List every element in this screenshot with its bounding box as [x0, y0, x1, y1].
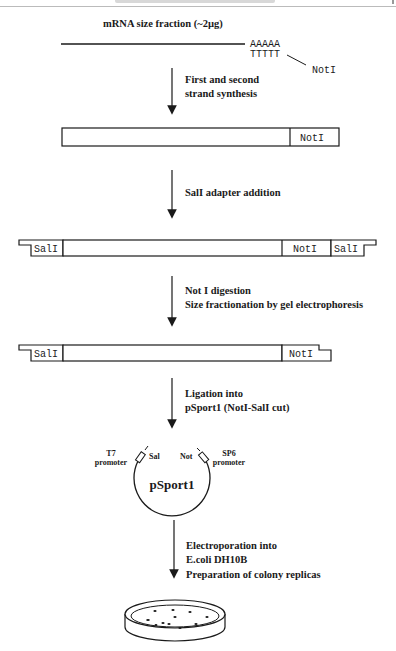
petri-dish-icon	[125, 600, 225, 641]
digested-construct: SalI NotI	[19, 345, 331, 361]
notI-pointer	[287, 55, 306, 65]
step-2: SalI adapter addition	[172, 170, 281, 214]
step-1-line-1: First and second	[185, 74, 259, 85]
plasmid-name: pSport1	[150, 477, 195, 492]
step-5: Electroporation into E.coli DH10B Prepar…	[174, 520, 321, 580]
plasmid-psport1: T7 promoter Sal Not SP6 promoter pSport1	[95, 446, 246, 516]
adapted-left-sal-label: SalI	[34, 244, 58, 255]
ds-notI-label: NotI	[300, 133, 324, 144]
t7-label: T7	[106, 449, 115, 458]
step-3-line-2: Size fractionation by gel electrophoresi…	[185, 299, 363, 310]
step-5-line-3: Preparation of colony replicas	[186, 569, 321, 580]
step-4-line-1: Ligation into	[185, 388, 243, 399]
step-1: First and second strand synthesis	[172, 68, 259, 110]
step-4: Ligation into pSport1 (NotI-SalI cut)	[172, 378, 290, 424]
step-3-line-1: Not I digestion	[185, 285, 251, 296]
adapted-right-sal-label: SalI	[334, 244, 358, 255]
cdna-library-flow-diagram: mRNA size fraction (~2µg) AAAAA TTTTT No…	[0, 0, 396, 651]
digested-sal-label: SalI	[34, 349, 58, 360]
t7-promoter-box	[135, 452, 145, 463]
adapted-notI-label: NotI	[293, 244, 317, 255]
mrna-title: mRNA size fraction (~2µg)	[103, 18, 223, 30]
sp6-promoter-label: promoter	[213, 458, 246, 467]
adapted-construct: SalI NotI SalI	[19, 240, 376, 256]
digested-notI-label: NotI	[289, 349, 313, 360]
sp6-promoter-box	[198, 452, 208, 463]
step-1-line-2: strand synthesis	[185, 88, 257, 99]
step-3: Not I digestion Size fractionation by ge…	[172, 276, 363, 322]
sal-site-label: Sal	[149, 452, 160, 461]
mrna-section: mRNA size fraction (~2µg) AAAAA TTTTT No…	[61, 18, 336, 76]
step-5-line-2: E.coli DH10B	[186, 554, 247, 565]
polyt-primer: TTTTT	[250, 49, 280, 60]
not-site-label: Not	[180, 452, 193, 461]
step-2-line-1: SalI adapter addition	[185, 187, 281, 198]
step-4-line-2: pSport1 (NotI-SalI cut)	[185, 402, 290, 414]
step-5-line-1: Electroporation into	[186, 540, 277, 551]
ds-cdna-construct: NotI	[62, 128, 339, 146]
sp6-label: SP6	[222, 449, 235, 458]
t7-promoter-label: promoter	[95, 458, 128, 467]
notI-primer-label: NotI	[312, 65, 336, 76]
